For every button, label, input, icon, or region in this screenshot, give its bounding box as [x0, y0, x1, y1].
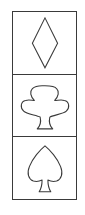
cell-club[interactable]: Club — [13, 74, 76, 137]
cell-diamond[interactable]: Diamond — [13, 12, 76, 74]
cell-spade[interactable]: Spade — [13, 136, 76, 199]
spade-icon — [13, 137, 76, 199]
club-icon — [13, 75, 76, 137]
diamond-icon — [13, 12, 76, 74]
suit-symbol-panel: Diamond Club Spade — [12, 11, 77, 200]
